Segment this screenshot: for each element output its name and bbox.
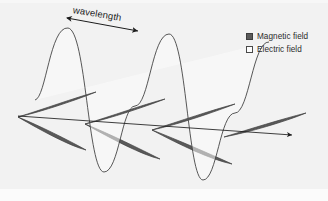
electric-field-swatch-icon: [246, 46, 253, 53]
top-edge-band: [0, 0, 328, 3]
legend-item-magnetic-field: Magnetic field: [246, 31, 326, 42]
magnetic-field-swatch-icon: [246, 33, 253, 40]
electromagnetic-wave-figure: wavelength Magnetic field Electric field: [0, 0, 328, 201]
legend-label-magnetic-field: Magnetic field: [257, 32, 308, 41]
bottom-edge-band: [0, 189, 328, 201]
legend-label-electric-field: Electric field: [257, 45, 302, 54]
legend: Magnetic field Electric field: [246, 31, 326, 57]
legend-item-electric-field: Electric field: [246, 44, 326, 55]
